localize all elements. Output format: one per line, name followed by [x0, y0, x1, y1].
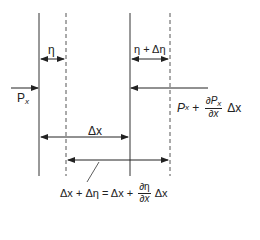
equation-tail: Δx [155, 188, 168, 199]
eta-label: η [48, 44, 55, 56]
equation: Δx + Δη = Δx + ∂η ∂x Δx [60, 182, 168, 204]
px-left-sub: x [25, 97, 29, 106]
equation-left: Δx + Δη = Δx + [60, 188, 136, 199]
px-right-fraction: ∂Px ∂x [205, 96, 223, 120]
px-right-plus: + [189, 102, 203, 114]
px-right-frac-den: ∂x [208, 109, 220, 120]
px-right-P: P [177, 102, 185, 114]
frac-sub: x [217, 99, 221, 108]
equation-fraction: ∂η ∂x [138, 182, 151, 204]
px-right-label: Px + ∂Px ∂x Δx [177, 96, 241, 120]
px-right-tail: Δx [227, 102, 241, 114]
px-right-frac-num: ∂Px [205, 96, 223, 109]
equation-frac-num: ∂η [138, 182, 151, 194]
eta-plus-delta-eta-label: η + Δη [134, 44, 166, 55]
delta-x-label: Δx [88, 125, 102, 137]
px-left-P: P [17, 91, 25, 105]
equation-frac-den: ∂x [138, 194, 150, 205]
px-left-label: Px [17, 92, 29, 106]
leader-line [87, 162, 99, 182]
